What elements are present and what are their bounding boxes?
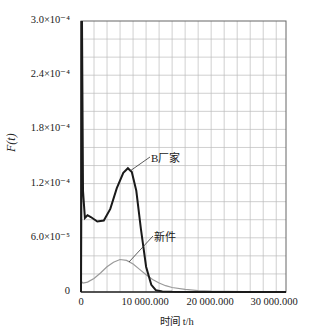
grid-lines — [81, 21, 286, 292]
series-b-vendor-line — [81, 21, 286, 292]
x-axis-label: 时间 t/h — [160, 313, 194, 328]
y-tick-label: 2.4×10⁻⁴ — [4, 67, 70, 79]
annotation-new-parts: 新件 — [154, 228, 176, 244]
y-tick-label: 6.0×10⁻⁵ — [4, 230, 70, 242]
y-tick-label: 0 — [4, 285, 70, 296]
plot-frame — [81, 21, 286, 292]
series-new-parts-line — [81, 260, 286, 292]
x-tick-label: 30 000.000 — [229, 296, 309, 307]
annotation-new-leader — [129, 236, 153, 262]
y-axis-label: F(t) — [4, 133, 19, 152]
annotation-b-vendor: B厂家 — [151, 149, 180, 165]
y-tick-label: 1.8×10⁻⁴ — [4, 121, 70, 133]
y-tick-label: 1.2×10⁻⁴ — [4, 176, 70, 188]
y-tick-label: 3.0×10⁻⁴ — [4, 13, 70, 25]
